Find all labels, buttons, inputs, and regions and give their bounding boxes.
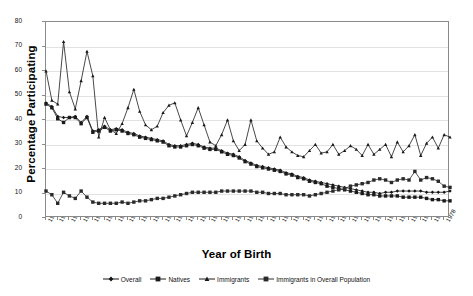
y-tick-label: 40 <box>0 116 22 123</box>
legend-label: Immigrants <box>217 276 249 283</box>
y-axis-title: Percentage Participating <box>25 19 37 209</box>
legend-marker-triangle-icon <box>199 275 215 283</box>
x-axis-title: Year of Birth <box>0 248 473 260</box>
legend-label: Overall <box>121 276 142 283</box>
legend-item: Natives <box>150 275 190 283</box>
series-immigrants <box>44 40 451 158</box>
series-natives <box>44 102 451 202</box>
y-tick-label: 70 <box>0 42 22 49</box>
legend-label: Immigrants in Overall Population <box>276 276 370 283</box>
legend-item: Immigrants in Overall Population <box>258 275 370 283</box>
legend-label: Natives <box>168 276 190 283</box>
plot-area <box>45 21 449 217</box>
legend-marker-square-icon <box>150 275 166 283</box>
legend-marker-diamond-icon <box>103 275 119 283</box>
y-tick-label: 20 <box>0 165 22 172</box>
y-tick-label: 80 <box>0 18 22 25</box>
legend-item: Immigrants <box>199 275 249 283</box>
series-lines <box>46 22 450 218</box>
legend-item: Overall <box>103 275 142 283</box>
series-immigrants-in-overall-population <box>44 170 451 205</box>
y-tick-label: 50 <box>0 91 22 98</box>
legend-marker-square-icon <box>258 275 274 283</box>
y-tick-label: 30 <box>0 140 22 147</box>
chart-figure: Percentage Participating Year of Birth 0… <box>0 0 473 296</box>
y-tick-label: 60 <box>0 67 22 74</box>
chart-legend: OverallNativesImmigrantsImmigrants in Ov… <box>0 275 473 283</box>
y-tick-label: 10 <box>0 189 22 196</box>
y-tick-label: 0 <box>0 214 22 221</box>
